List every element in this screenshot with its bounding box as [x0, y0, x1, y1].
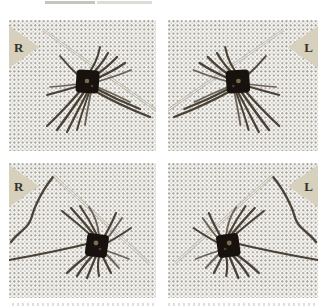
side-label: R [14, 180, 23, 193]
whisker-photo-top-left: R [9, 20, 156, 151]
cropped-text-remnant [97, 1, 152, 4]
whisker-photo-bottom-left: R [9, 163, 156, 298]
side-label: R [14, 41, 23, 54]
figure-page: R L R L [0, 0, 325, 308]
side-label: L [304, 41, 313, 54]
page-texture-remnant [168, 303, 318, 306]
cropped-text-remnant [45, 1, 95, 4]
whisker-photo-bottom-right: L [168, 163, 318, 298]
whisker-specimen-illustration [168, 20, 318, 151]
whisker-photo-top-right: L [168, 20, 318, 151]
whisker-specimen-illustration [9, 20, 156, 151]
page-texture-remnant [12, 303, 154, 306]
side-label: L [304, 180, 313, 193]
